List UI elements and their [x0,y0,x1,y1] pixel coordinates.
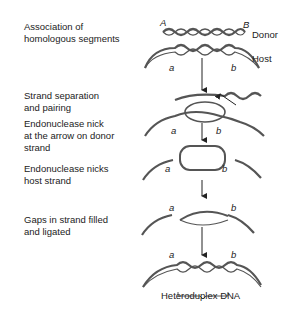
heteroduplex-label: Heteroduplex DNA [161,290,240,301]
marker-a-step4: a [169,202,174,213]
dna-helices [142,29,264,287]
donor-label: Donor [252,29,278,40]
marker-donor-A: A [160,17,166,28]
recombination-diagram [0,0,299,311]
marker-b-step4: b [231,202,236,213]
marker-a-step3: a [165,163,170,174]
marker-b-step2: b [216,125,221,136]
marker-host-b: b [231,62,236,73]
marker-donor-B: B [243,19,249,30]
marker-a-step2: a [171,125,176,136]
marker-host-a: a [169,62,174,73]
host-label: Host [252,53,272,64]
marker-b-step3: b [222,163,227,174]
marker-a-step5: a [169,249,174,260]
marker-b-step5: b [231,249,236,260]
